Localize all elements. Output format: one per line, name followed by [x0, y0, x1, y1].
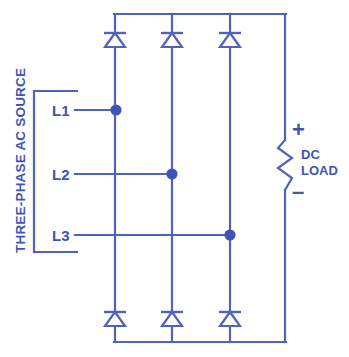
- diode-bottom-2: [161, 312, 183, 326]
- diode-top-2: [161, 33, 183, 47]
- dc-load-resistor: [278, 140, 292, 190]
- diode-top-1: [104, 33, 126, 47]
- diode-bottom-1: [104, 312, 126, 326]
- junction-dot-l2: [166, 168, 177, 179]
- label-three-phase-ac-source: THREE-PHASE AC SOURCE: [13, 68, 28, 253]
- circuit-diagram: + – L1 L2 L3 DC LOAD THREE-PHASE AC SOUR…: [0, 0, 349, 357]
- diode-bottom-3: [219, 312, 241, 326]
- polarity-plus-sign: +: [292, 117, 305, 142]
- label-l2: L2: [52, 166, 70, 183]
- junction-dot-l1: [110, 104, 121, 115]
- polarity-minus-sign: –: [292, 179, 304, 204]
- junction-dot-l3: [224, 229, 235, 240]
- circuit-schematic-svg: + – L1 L2 L3 DC LOAD THREE-PHASE AC SOUR…: [0, 0, 349, 357]
- label-dc-load-line1: DC: [301, 147, 320, 162]
- label-dc-load-line2: LOAD: [301, 163, 338, 178]
- label-l3: L3: [52, 227, 70, 244]
- diode-top-3: [219, 33, 241, 47]
- label-l1: L1: [52, 102, 70, 119]
